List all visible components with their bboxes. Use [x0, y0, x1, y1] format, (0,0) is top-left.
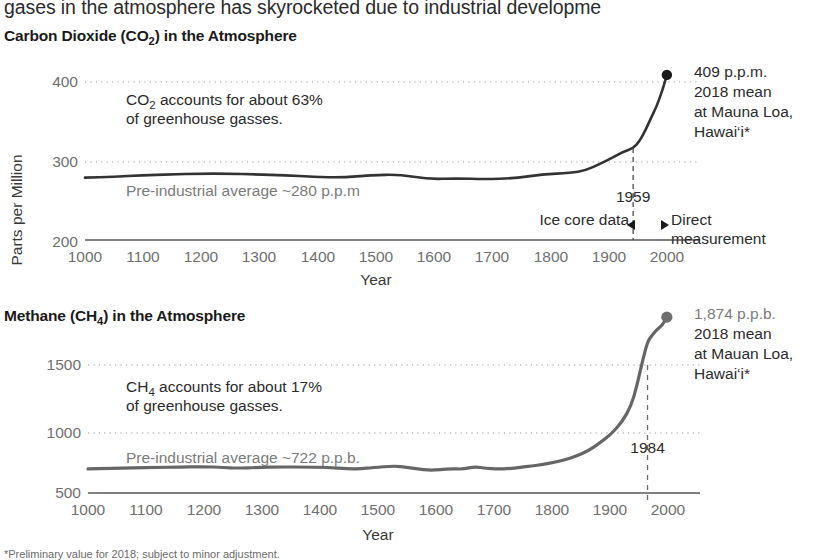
ch4-endpoint-line2: 2018 mean [694, 325, 772, 342]
ch4-xtick-1500: 1500 [361, 501, 396, 518]
co2-callout-line1: CO2 accounts for about 63% [126, 91, 323, 111]
co2-endpoint-value: 409 p.p.m. [694, 63, 767, 80]
ch4-baseline-label: Pre-industrial average ~722 p.p.b. [126, 449, 360, 466]
co2-xtick-1900: 1900 [592, 248, 627, 265]
co2-endpoint-line3: at Mauna Loa, [694, 103, 793, 120]
ch4-xtick-1400: 1400 [303, 501, 338, 518]
co2-callout-prefix: CO [126, 91, 149, 108]
ch4-ytick-500: 500 [55, 484, 81, 501]
co2-xtick-1400: 1400 [301, 248, 336, 265]
footnote-text: *Preliminary value for 2018; subject to … [4, 548, 280, 560]
ch4-xtick-1600: 1600 [419, 501, 454, 518]
ch4-endpoint-line4: Hawai‘i* [694, 365, 750, 382]
intro-paragraph: gases in the atmosphere has skyrocketed … [4, 0, 825, 20]
co2-ice-core-label: Ice core data [539, 211, 629, 228]
co2-callout-line2: of greenhouse gasses. [126, 110, 283, 127]
co2-baseline-label: Pre-industrial average ~280 p.p.m [126, 182, 360, 199]
co2-endpoint-line4: Hawai‘i* [694, 123, 750, 140]
co2-title-prefix: Carbon Dioxide (CO [4, 27, 149, 44]
ch4-xtick-1900: 1900 [593, 501, 628, 518]
co2-x-axis-label: Year [360, 271, 391, 288]
ch4-ytick-1500: 1500 [47, 356, 82, 373]
ch4-xtick-1100: 1100 [129, 501, 163, 518]
ch4-xtick-1300: 1300 [245, 501, 280, 518]
ch4-xtick-1000: 1000 [71, 501, 106, 518]
co2-title-suffix: ) in the Atmosphere [155, 27, 297, 44]
co2-divider-year-label: 1959 [616, 188, 650, 205]
co2-endpoint-line2: 2018 mean [694, 83, 772, 100]
co2-endpoint-marker [662, 70, 672, 80]
ch4-callout-prefix: CH [126, 378, 148, 395]
ch4-divider-year-label: 1984 [630, 439, 665, 456]
co2-ytick-400: 400 [52, 73, 78, 90]
ch4-x-tick-labels: 1000 1100 1200 1300 1400 1500 1600 1700 … [71, 501, 686, 518]
ch4-callout-rest: accounts for about 17% [155, 378, 322, 395]
co2-y-axis-label: Parts per Million [8, 154, 25, 265]
co2-chart-title: Carbon Dioxide (CO2) in the Atmosphere [4, 27, 297, 47]
ch4-endpoint-line3: at Mauan Loa, [694, 345, 793, 362]
ch4-endpoint-marker [661, 312, 672, 323]
ch4-chart: Parts per Billion 1500 1000 500 1000 110… [0, 300, 825, 558]
co2-xtick-1200: 1200 [184, 248, 219, 265]
co2-xtick-1600: 1600 [417, 248, 452, 265]
co2-callout-rest: accounts for about 63% [156, 91, 323, 108]
ch4-xtick-1200: 1200 [187, 501, 222, 518]
co2-x-tick-labels: 1000 1100 1200 1300 1400 1500 1600 1700 … [68, 248, 685, 265]
co2-xtick-1500: 1500 [359, 248, 394, 265]
ch4-callout-line1: CH4 accounts for about 17% [126, 378, 322, 398]
ch4-x-axis-label: Year [362, 526, 393, 543]
ch4-callout-line2: of greenhouse gasses. [126, 397, 283, 414]
ch4-xtick-2000: 2000 [651, 501, 686, 518]
co2-xtick-1700: 1700 [475, 248, 510, 265]
co2-xtick-1800: 1800 [534, 248, 569, 265]
ch4-xtick-1800: 1800 [535, 501, 570, 518]
ch4-xtick-1700: 1700 [477, 501, 512, 518]
co2-direct-label-line1: Direct [671, 211, 712, 228]
ch4-endpoint-value: 1,874 p.p.b. [694, 305, 776, 322]
co2-xtick-1000: 1000 [68, 248, 103, 265]
co2-xtick-2000: 2000 [650, 248, 685, 265]
co2-xtick-1300: 1300 [242, 248, 277, 265]
arrow-right-icon [661, 220, 669, 230]
co2-direct-label-line2: measurement [671, 230, 766, 247]
ch4-ytick-1000: 1000 [47, 424, 82, 441]
co2-xtick-1100: 1100 [126, 248, 160, 265]
co2-ytick-300: 300 [52, 153, 78, 170]
co2-chart: Parts per Million 400 300 200 1000 1100 … [0, 50, 825, 300]
